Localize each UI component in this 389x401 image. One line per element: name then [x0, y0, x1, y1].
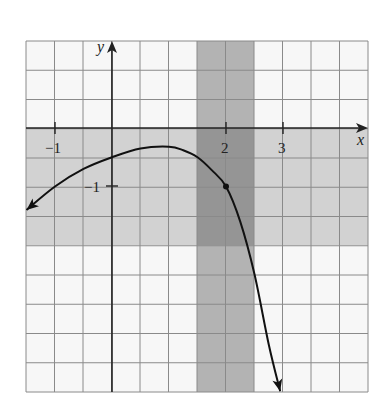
y-tick-label-neg1: −1: [84, 179, 100, 195]
x-tick-label-3: 3: [278, 140, 286, 156]
marked-point: [223, 184, 229, 190]
x-tick-label-neg1: −1: [45, 140, 61, 156]
x-axis-label: x: [356, 131, 364, 148]
y-axis-label: y: [95, 38, 105, 56]
function-graph: y x −1 2 3 −1: [0, 0, 389, 401]
x-tick-label-2: 2: [221, 140, 229, 156]
